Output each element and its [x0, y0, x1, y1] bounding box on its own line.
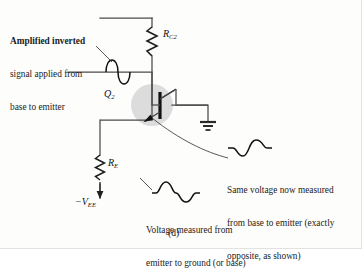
- label-collector-resistor: RC2: [163, 28, 177, 40]
- label-transistor: Q2: [104, 88, 115, 100]
- waveform-emitter-to-ground: [152, 182, 200, 202]
- label-supply-vee: −VEE: [75, 196, 96, 208]
- wire-collector-to-ground: [172, 105, 208, 122]
- supply-arrow: [97, 182, 104, 199]
- label-emitter-resistor: RE: [108, 157, 118, 169]
- annotation-bottom-line2: emitter to ground (or base): [146, 258, 246, 269]
- annotation-bottom: Voltage measured from emitter to ground …: [146, 203, 246, 273]
- leader-right: [152, 118, 228, 158]
- leader-top-left: [96, 46, 112, 62]
- annotation-right-line1: Same voltage now measured: [227, 185, 334, 196]
- label-re-sub: E: [114, 162, 118, 169]
- resistor-re: [96, 155, 105, 180]
- resistor-rc2: [147, 27, 157, 56]
- label-vee-sub: EE: [88, 201, 96, 208]
- label-rc2-sub: C2: [169, 33, 177, 40]
- annotation-top-left-line2: signal applied from: [10, 69, 85, 80]
- waveform-base-to-emitter: [228, 140, 272, 156]
- annotation-top-left-line1: Amplified inverted: [10, 36, 85, 47]
- ground-symbol: [200, 122, 216, 130]
- annotation-top-left-line3: base to emitter: [10, 102, 85, 113]
- label-q2-sub: 2: [111, 93, 114, 100]
- leader-bottom: [140, 178, 152, 190]
- label-vee-name: −V: [75, 196, 88, 207]
- annotation-top-left: Amplified inverted signal applied from b…: [10, 14, 85, 135]
- annotation-bottom-line1: Voltage measured from: [146, 225, 246, 236]
- figure-part-label: (d): [168, 228, 179, 238]
